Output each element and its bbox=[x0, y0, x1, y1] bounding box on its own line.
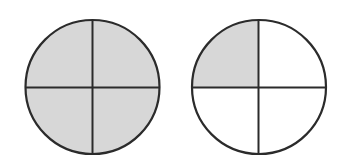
left-circle bbox=[26, 20, 160, 154]
fraction-circles-diagram bbox=[0, 0, 347, 165]
right-circle bbox=[192, 20, 326, 154]
